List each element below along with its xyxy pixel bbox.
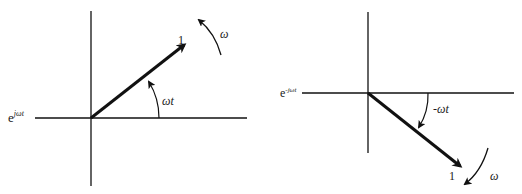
left-phasor-diagram: ejωt 1 ωt ω (8, 11, 247, 186)
left-angle-arc (149, 82, 159, 118)
right-magnitude-label: 1 (449, 169, 455, 183)
left-expression-label: ejωt (8, 109, 25, 125)
right-phasor-diagram: e-jωt 1 -ωt ω (280, 12, 514, 184)
phasor-diagrams: ejωt 1 ωt ω e-jωt 1 -ωt ω (0, 0, 522, 194)
left-rotation-label: ω (220, 27, 228, 41)
right-angle-arc (419, 93, 428, 127)
left-angle-label: ωt (162, 94, 174, 108)
right-angle-label: -ωt (433, 102, 449, 116)
left-rotation-arrow (199, 20, 221, 55)
right-expression-label: e-jωt (280, 86, 298, 100)
right-rotation-label: ω (490, 169, 498, 183)
left-magnitude-label: 1 (178, 33, 184, 47)
right-rotation-arrow (465, 148, 488, 184)
